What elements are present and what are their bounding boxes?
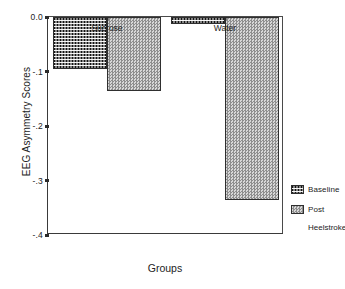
legend-swatch-post bbox=[291, 205, 304, 214]
y-tick-mark bbox=[45, 234, 49, 237]
plot-area: 0.0-.1-.2-.3-.4SucroseWater bbox=[48, 17, 282, 233]
y-tick-mark bbox=[45, 16, 49, 19]
y-tick-mark bbox=[45, 179, 49, 182]
y-tick-label: -.4 bbox=[32, 230, 43, 240]
plot-frame: 0.0-.1-.2-.3-.4SucroseWater bbox=[47, 16, 283, 234]
legend-item-baseline: Baseline bbox=[291, 183, 345, 196]
x-tick-mark bbox=[106, 17, 109, 20]
x-axis-title: Groups bbox=[47, 262, 283, 274]
x-tick-mark bbox=[224, 17, 227, 20]
legend-label: Post bbox=[308, 205, 324, 214]
y-axis-title: EEG Asymmetry Scores bbox=[21, 22, 32, 222]
bar-water-post bbox=[225, 17, 279, 200]
y-tick-label: -.1 bbox=[32, 67, 43, 77]
legend-label: Baseline bbox=[308, 185, 340, 194]
y-tick-mark bbox=[45, 125, 49, 128]
legend-caption: Heelstroke bbox=[308, 223, 345, 232]
y-tick-label: -.2 bbox=[32, 121, 43, 131]
y-tick-mark bbox=[45, 70, 49, 73]
chart-legend: BaselinePost Heelstroke bbox=[291, 183, 345, 232]
y-tick-label: 0.0 bbox=[31, 12, 43, 22]
x-tick-label: Water bbox=[214, 23, 236, 33]
x-tick-label: Sucrose bbox=[91, 23, 122, 33]
y-tick-label: -.3 bbox=[32, 176, 43, 186]
eeg-asymmetry-bar-chart: EEG Asymmetry Scores 0.0-.1-.2-.3-.4Sucr… bbox=[0, 0, 345, 289]
legend-swatch-baseline bbox=[291, 185, 304, 194]
legend-item-post: Post bbox=[291, 203, 345, 216]
legend-items: BaselinePost bbox=[291, 183, 345, 216]
